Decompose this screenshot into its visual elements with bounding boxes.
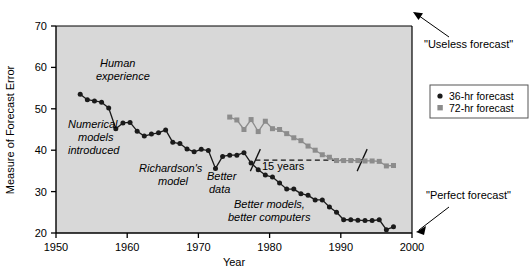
data-point — [185, 146, 190, 151]
data-point — [241, 127, 246, 132]
annotation-fifteen-years: 15 years — [262, 160, 305, 172]
data-point — [256, 167, 261, 172]
data-point — [341, 217, 346, 222]
annotation-richardson-line1: Richardson's — [139, 162, 203, 174]
data-point — [249, 161, 254, 166]
data-point — [284, 187, 289, 192]
data-point — [313, 197, 318, 202]
data-point — [220, 154, 225, 159]
legend-label-72hr: 72-hr forecast — [449, 102, 514, 114]
data-point — [156, 130, 161, 135]
data-point — [298, 191, 303, 196]
data-point — [206, 148, 211, 153]
annotation-better-models-line2: better computers — [228, 211, 311, 223]
data-point — [192, 149, 197, 154]
data-point — [284, 131, 289, 136]
data-point — [177, 141, 182, 146]
data-point — [370, 158, 375, 163]
data-point — [363, 218, 368, 223]
data-point — [163, 127, 168, 132]
data-point — [199, 147, 204, 152]
data-point — [92, 98, 97, 103]
y-tick-label-70: 70 — [35, 20, 47, 32]
data-point — [327, 155, 332, 160]
data-point — [341, 158, 346, 163]
x-axis-title: Year — [223, 256, 246, 268]
data-point — [234, 153, 239, 158]
data-point — [298, 138, 303, 143]
data-point — [128, 120, 133, 125]
useless-forecast-label: "Useless forecast" — [424, 38, 513, 50]
annotation-human-experience-line1: Human — [100, 57, 135, 69]
chart-canvas: 203040506070 195019601970198019902000 Me… — [0, 0, 531, 274]
data-point — [334, 158, 339, 163]
data-point — [263, 119, 268, 124]
data-point — [227, 153, 232, 158]
data-point — [170, 140, 175, 145]
annotation-numerical-line2: models — [78, 131, 114, 143]
y-tick-label-20: 20 — [35, 227, 47, 239]
data-point — [263, 173, 268, 178]
legend-marker-72hr-icon — [437, 105, 442, 110]
y-tick-label-40: 40 — [35, 144, 47, 156]
data-point — [348, 158, 353, 163]
data-point — [256, 129, 261, 134]
data-point — [291, 135, 296, 140]
data-point — [78, 92, 83, 97]
data-point — [391, 163, 396, 168]
x-tick-label-1970: 1970 — [186, 241, 210, 253]
data-point — [270, 175, 275, 180]
data-point — [384, 163, 389, 168]
data-point — [377, 159, 382, 164]
y-tick-label-30: 30 — [35, 186, 47, 198]
data-point — [234, 117, 239, 122]
data-point — [85, 97, 90, 102]
data-point — [227, 115, 232, 120]
data-point — [363, 158, 368, 163]
x-tick-label-1990: 1990 — [329, 241, 353, 253]
data-point — [306, 193, 311, 198]
forecast-error-chart-figure: 203040506070 195019601970198019902000 Me… — [0, 0, 531, 274]
x-tick-label-1950: 1950 — [44, 241, 68, 253]
legend-label-36hr: 36-hr forecast — [449, 90, 514, 102]
chart-legend[interactable]: 36-hr forecast 72-hr forecast — [430, 85, 528, 118]
data-point — [241, 150, 246, 155]
data-point — [313, 148, 318, 153]
x-tick-label-1960: 1960 — [115, 241, 139, 253]
data-point — [355, 158, 360, 163]
data-point — [327, 204, 332, 209]
data-point — [320, 152, 325, 157]
annotation-better-data-line1: Better — [207, 170, 238, 182]
data-point — [291, 187, 296, 192]
data-point — [306, 144, 311, 149]
data-point — [120, 120, 125, 125]
annotation-numerical-line3: introduced — [68, 144, 120, 156]
data-point — [142, 134, 147, 139]
data-point — [270, 126, 275, 131]
data-point — [277, 180, 282, 185]
annotation-better-data-line2: data — [209, 183, 230, 195]
annotation-numerical-line1: Numerical — [68, 118, 118, 130]
annotation-human-experience-line2: experience — [96, 70, 150, 82]
data-point — [355, 218, 360, 223]
data-point — [370, 218, 375, 223]
legend-marker-36hr-icon — [437, 93, 442, 98]
y-tick-label-50: 50 — [35, 103, 47, 115]
data-point — [106, 105, 111, 110]
data-point — [348, 217, 353, 222]
x-tick-label-2000: 2000 — [400, 241, 424, 253]
data-point — [377, 217, 382, 222]
y-tick-label-60: 60 — [35, 61, 47, 73]
data-point — [149, 132, 154, 137]
annotation-richardson-line2: model — [158, 175, 189, 187]
perfect-forecast-label: "Perfect forecast" — [426, 189, 511, 201]
data-point — [320, 197, 325, 202]
data-point — [384, 227, 389, 232]
data-point — [135, 129, 140, 134]
data-point — [99, 100, 104, 105]
y-axis-title: Measure of Forecast Error — [4, 65, 16, 194]
annotation-better-models-line1: Better models, — [234, 198, 305, 210]
x-tick-label-1980: 1980 — [257, 241, 281, 253]
data-point — [334, 210, 339, 215]
data-point — [249, 117, 254, 122]
